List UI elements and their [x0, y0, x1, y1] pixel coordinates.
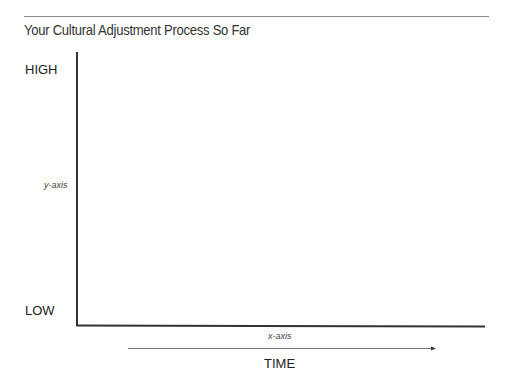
x-axis-label: x-axis — [268, 331, 292, 341]
arrow-head-icon — [431, 347, 436, 351]
axes-graphic — [0, 0, 512, 382]
time-label: TIME — [264, 356, 295, 371]
x-axis-line — [76, 326, 485, 327]
